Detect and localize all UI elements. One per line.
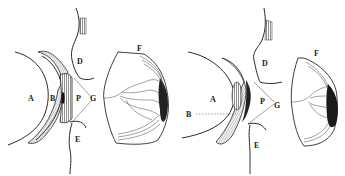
right-label-g: G — [274, 101, 280, 110]
right-diagram: A B P G D E F — [182, 8, 338, 174]
right-eyelashes-upper — [265, 20, 272, 40]
left-lower-eyelid — [69, 121, 86, 174]
left-label-a: A — [28, 94, 34, 103]
right-label-p: P — [260, 97, 265, 106]
right-label-e: E — [254, 141, 259, 150]
right-crystalline-lens — [232, 82, 242, 110]
left-label-b: B — [50, 94, 56, 103]
left-label-d: D — [77, 57, 83, 66]
left-diagram: A B P G D E F — [8, 8, 169, 174]
left-label-f: F — [137, 44, 142, 53]
right-cornea-arc — [182, 52, 234, 138]
left-label-p: P — [76, 94, 81, 103]
right-label-d: D — [262, 59, 268, 68]
right-cone-lower — [248, 104, 274, 124]
left-pupil — [61, 92, 64, 104]
right-label-f: F — [314, 49, 319, 58]
left-eyelashes-upper — [80, 18, 86, 34]
right-upper-eyelid — [254, 8, 282, 84]
right-label-b: B — [186, 110, 192, 119]
left-label-g: G — [90, 94, 96, 103]
left-cone-lower — [72, 100, 92, 122]
right-label-a: A — [210, 95, 216, 104]
left-label-e: E — [75, 135, 80, 144]
eye-diagram-figure: A B P G D E F A B — [0, 0, 345, 176]
